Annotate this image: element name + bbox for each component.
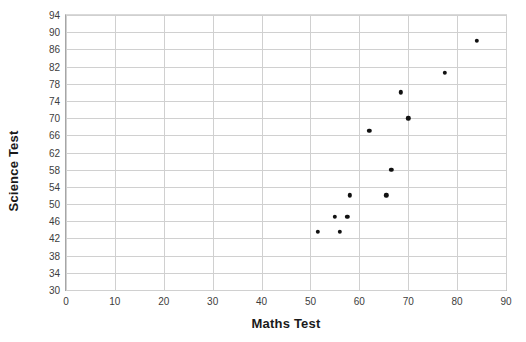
gridline-horizontal [66,273,506,274]
data-point [367,129,371,133]
y-tick-label: 38 [16,250,60,261]
x-tick-label: 50 [290,296,330,307]
y-tick-label: 54 [16,181,60,192]
gridline-horizontal [66,135,506,136]
gridline-horizontal [66,101,506,102]
y-tick-label: 82 [16,61,60,72]
gridline-vertical [310,15,311,290]
gridline-horizontal [66,49,506,50]
x-tick-label: 40 [242,296,282,307]
gridline-vertical [164,15,165,290]
data-point [474,39,478,43]
y-tick-label: 34 [16,267,60,278]
gridline-vertical [506,15,507,290]
gridline-horizontal [66,204,506,205]
data-point [389,167,393,171]
y-tick-label: 46 [16,216,60,227]
gridline-horizontal [66,256,506,257]
data-point [406,116,410,120]
data-point [338,230,342,234]
data-point [345,215,349,219]
data-point [399,90,403,94]
x-tick-label: 20 [144,296,184,307]
gridline-horizontal [66,118,506,119]
y-tick-label: 86 [16,44,60,55]
y-tick-label: 66 [16,130,60,141]
y-tick-label: 50 [16,199,60,210]
gridline-horizontal [66,238,506,239]
x-tick-label: 60 [339,296,379,307]
y-tick-label: 30 [16,285,60,296]
gridline-horizontal [66,153,506,154]
data-point [316,230,320,234]
data-point [347,193,351,197]
x-tick-label: 90 [486,296,526,307]
x-tick-label: 0 [46,296,86,307]
y-tick-label: 62 [16,147,60,158]
gridline-vertical [359,15,360,290]
y-tick-label: 70 [16,113,60,124]
gridline-vertical [66,15,67,290]
data-point [443,71,447,75]
x-tick-label: 80 [437,296,477,307]
gridline-horizontal [66,32,506,33]
y-tick-label: 42 [16,233,60,244]
gridline-horizontal [66,170,506,171]
data-point [333,215,337,219]
gridline-horizontal [66,67,506,68]
scatter-chart: Science Test 303438424650545862667074788… [0,0,526,342]
x-tick-label: 70 [388,296,428,307]
plot-area: 3034384246505458626670747882869094 01020… [65,14,507,291]
gridline-vertical [457,15,458,290]
gridline-horizontal [66,221,506,222]
gridline-vertical [262,15,263,290]
y-tick-label: 94 [16,10,60,21]
y-tick-label: 58 [16,164,60,175]
x-tick-label: 30 [193,296,233,307]
y-tick-label: 74 [16,95,60,106]
y-tick-label: 78 [16,78,60,89]
gridline-horizontal [66,84,506,85]
gridline-vertical [213,15,214,290]
y-tick-label: 90 [16,27,60,38]
data-point [384,193,388,197]
gridline-horizontal [66,15,506,16]
x-tick-label: 10 [95,296,135,307]
gridline-vertical [408,15,409,290]
x-axis-title: Maths Test [65,316,507,331]
gridline-horizontal [66,187,506,188]
gridline-vertical [115,15,116,290]
gridline-horizontal [66,290,506,291]
